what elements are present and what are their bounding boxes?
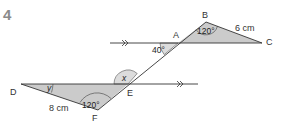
- label-b: B: [202, 10, 208, 20]
- label-e: E: [127, 88, 133, 98]
- geometry-diagram: A B C D E F 40° 120° 120° x y 6 cm 8 cm: [0, 0, 283, 127]
- transversal-line: [98, 22, 206, 110]
- label-d: D: [10, 87, 17, 97]
- length-bc: 6 cm: [235, 23, 255, 33]
- angle-b-value: 120°: [197, 26, 215, 36]
- triangle-def: [21, 84, 128, 110]
- angle-y-value: y: [46, 83, 52, 93]
- angle-x-value: x: [121, 73, 127, 83]
- label-c: C: [266, 37, 273, 47]
- angle-f-value: 120°: [82, 100, 100, 110]
- label-f: F: [92, 113, 98, 123]
- length-df: 8 cm: [49, 103, 69, 113]
- label-a: A: [173, 30, 179, 40]
- angle-a-value: 40°: [152, 45, 165, 55]
